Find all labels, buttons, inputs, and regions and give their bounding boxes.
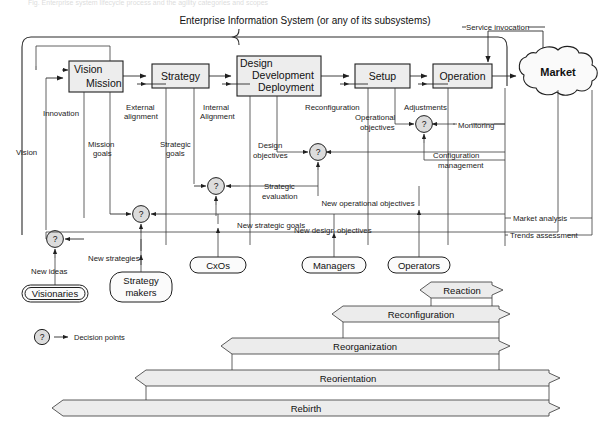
label-external-alignment-1: External <box>126 103 155 112</box>
label-new-design-objectives: New design objectives <box>294 226 372 235</box>
label-adjustments: Adjustments <box>404 103 447 112</box>
band-reorientation-text: Reorientation <box>320 373 377 384</box>
label-operational-objectives-2: objectives <box>360 123 395 132</box>
box-vision-mission-line2: Mission <box>86 77 122 89</box>
label-external-alignment-2: alignment <box>124 112 159 121</box>
cut-off-caption-row: Fig. Enterprise system lifecycle process… <box>28 0 269 7</box>
label-reconfiguration-edge: Reconfiguration <box>305 103 360 112</box>
enterprise-information-system-diagram: Fig. Enterprise system lifecycle process… <box>0 0 610 425</box>
svg-text:Fig. Enterprise system li: Fig. Enterprise system lifecycle process… <box>28 0 269 7</box>
label-vision: Vision <box>16 148 37 157</box>
decision-symbol-mission: ? <box>139 209 144 219</box>
band-rebirth-text: Rebirth <box>291 403 322 414</box>
role-strategy-makers-line1: Strategy <box>123 275 159 286</box>
label-internal-alignment-2: Alignment <box>200 112 236 121</box>
box-design-line1: Design <box>240 57 273 69</box>
diagram-title: Enterprise Information System (or any of… <box>179 15 430 26</box>
label-service-invocation: Service invocation <box>466 23 529 32</box>
label-mission-goals-2: goals <box>93 149 112 158</box>
label-design-objectives-2: objectives <box>253 151 288 160</box>
role-cxos[interactable]: CxOs <box>190 257 246 273</box>
role-visionaries-label: Visionaries <box>32 288 79 299</box>
role-managers[interactable]: Managers <box>302 257 366 273</box>
label-monitoring: Monitoring <box>458 121 494 130</box>
box-design-line3: Deployment <box>258 81 314 93</box>
label-new-operational-objectives: New operational objectives <box>321 199 414 208</box>
role-strategy-makers[interactable]: Strategy makers <box>110 272 172 302</box>
legend-decision-points-text: Decision points <box>74 333 125 342</box>
label-configuration-management-1: Configuration <box>433 151 479 160</box>
label-trends-assessment: Trends assessment <box>510 231 579 240</box>
label-design-objectives-1: Design <box>258 141 282 150</box>
decision-symbol-strategy: ? <box>214 181 219 191</box>
role-operators[interactable]: Operators <box>388 257 450 273</box>
box-vision-mission-line1: Vision <box>74 63 103 75</box>
band-reorganization-text: Reorganization <box>333 341 397 352</box>
box-vision-mission[interactable]: Vision Mission <box>69 61 123 92</box>
decision-symbol-design: ? <box>316 147 321 157</box>
decision-symbol-vision: ? <box>53 234 58 244</box>
edge-label-group: Innovation Vision External alignment Int… <box>16 103 579 276</box>
label-new-strategies: New strategies <box>88 254 140 263</box>
market-label: Market <box>540 66 576 78</box>
label-operational-objectives-1: Operational <box>355 113 396 122</box>
role-strategy-makers-line2: makers <box>125 287 156 298</box>
box-operation-label: Operation <box>439 70 485 82</box>
label-new-ideas: New ideas <box>31 267 68 276</box>
role-visionaries[interactable]: Visionaries <box>22 285 88 302</box>
decision-point-strategy[interactable]: ? <box>194 178 318 216</box>
label-internal-alignment-1: Internal <box>203 103 229 112</box>
box-design-development-deployment[interactable]: Design Development Deployment <box>237 56 321 96</box>
label-strategic-goals-2: goals <box>166 149 185 158</box>
box-design-line2: Development <box>252 69 314 81</box>
legend-decision-symbol: ? <box>40 332 45 342</box>
label-configuration-management-2: management <box>438 161 484 170</box>
label-mission-goals-1: Mission <box>88 140 114 149</box>
role-operators-label: Operators <box>398 260 440 271</box>
legend-decision-points: ? Decision points <box>34 329 125 344</box>
role-cxos-label: CxOs <box>206 260 230 271</box>
label-strategic-goals-1: Strategic <box>160 140 191 149</box>
label-market-analysis: Market analysis <box>513 214 567 223</box>
label-strategic-evaluation-1: Strategic <box>264 182 295 191</box>
role-managers-label: Managers <box>313 260 355 271</box>
label-innovation: Innovation <box>43 109 79 118</box>
band-reconfiguration-text: Reconfiguration <box>388 309 455 320</box>
label-strategic-evaluation-2: evaluation <box>262 192 298 201</box>
box-strategy-label: Strategy <box>161 70 201 82</box>
box-setup-label: Setup <box>369 70 397 82</box>
decision-point-mission[interactable]: ? <box>110 206 505 265</box>
band-reaction-text: Reaction <box>443 285 481 296</box>
decision-symbol-operation: ? <box>422 119 427 129</box>
diagram-canvas: Fig. Enterprise system lifecycle process… <box>0 0 610 425</box>
market-cloud[interactable]: Market <box>519 46 597 95</box>
